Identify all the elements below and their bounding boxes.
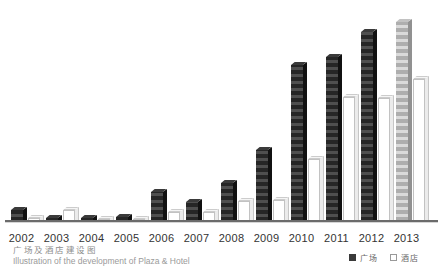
caption-chinese: 广场及酒店建设图 xyxy=(13,244,190,256)
hotel-bar-2013-side xyxy=(425,76,430,221)
legend-hotel-label: 酒店 xyxy=(401,252,419,263)
hotel-bar-2012-side xyxy=(390,95,395,221)
legend-plaza-label: 广场 xyxy=(360,252,378,263)
chart-caption: 广场及酒店建设图 Illustration of the development… xyxy=(13,244,190,267)
x-label-2008: 2008 xyxy=(214,232,249,244)
x-label-2009: 2009 xyxy=(249,232,284,244)
plaza-bar-2008-side xyxy=(233,180,238,221)
bar-group-2012 xyxy=(360,0,395,221)
plaza-bar-2011 xyxy=(326,53,342,221)
legend-item-hotel: 酒店 xyxy=(390,252,419,263)
bar-group-2013 xyxy=(395,0,430,221)
x-label-2006: 2006 xyxy=(144,232,179,244)
hotel-bar-2013-face xyxy=(413,79,425,221)
hotel-bar-2008 xyxy=(238,197,254,221)
hotel-bar-2008-side xyxy=(250,198,255,221)
plaza-bar-2010 xyxy=(291,61,307,221)
x-label-2013: 2013 xyxy=(389,232,424,244)
x-label-2011: 2011 xyxy=(319,232,354,244)
x-label-2010: 2010 xyxy=(284,232,319,244)
plaza-bar-2009-side xyxy=(268,147,273,221)
plaza-bar-2011-face xyxy=(326,57,338,221)
bar-group-2007 xyxy=(185,0,220,221)
plaza-bar-2007-side xyxy=(198,199,203,221)
plaza-bar-2013 xyxy=(396,18,412,221)
hotel-bar-2008-face xyxy=(238,201,250,221)
x-label-2012: 2012 xyxy=(354,232,389,244)
bar-group-2009 xyxy=(255,0,290,221)
plaza-bar-2012-face xyxy=(361,32,373,221)
plaza-bar-2007 xyxy=(186,198,202,221)
x-label-2003: 2003 xyxy=(39,232,74,244)
plaza-bar-2008-face xyxy=(221,183,233,221)
x-label-2004: 2004 xyxy=(74,232,109,244)
plaza-bar-2012 xyxy=(361,28,377,221)
chart-legend: 广场 酒店 xyxy=(349,252,419,263)
plaza-bar-2010-face xyxy=(291,65,303,221)
plaza-bar-2008 xyxy=(221,179,237,221)
hotel-bar-2011 xyxy=(343,93,359,221)
bar-group-2011 xyxy=(325,0,360,221)
x-label-2002: 2002 xyxy=(4,232,39,244)
bar-group-2005 xyxy=(115,0,150,221)
bar-group-2010 xyxy=(290,0,325,221)
plaza-swatch-icon xyxy=(349,254,356,261)
plaza-bar-2011-side xyxy=(338,54,343,221)
hotel-bar-2003 xyxy=(63,206,79,221)
hotel-bar-2013 xyxy=(413,75,429,221)
bar-group-2006 xyxy=(150,0,185,221)
plaza-bar-2009-face xyxy=(256,150,268,221)
x-axis-line xyxy=(5,220,438,223)
plaza-bar-2009 xyxy=(256,146,272,221)
x-label-2005: 2005 xyxy=(109,232,144,244)
plaza-bar-2010-side xyxy=(303,62,308,221)
hotel-bar-2009 xyxy=(273,196,289,221)
plaza-bar-2012-side xyxy=(373,29,378,221)
hotel-swatch-icon xyxy=(390,254,397,261)
bar-group-2003 xyxy=(45,0,80,221)
plot-area xyxy=(10,0,430,221)
hotel-bar-2012-face xyxy=(378,98,390,221)
plaza-bar-2006-side xyxy=(163,189,168,221)
caption-english: Illustration of the development of Plaza… xyxy=(13,256,190,267)
hotel-bar-2010 xyxy=(308,155,324,221)
plaza-bar-2006 xyxy=(151,188,167,221)
chart-canvas: 2002200320042005200620072008200920102011… xyxy=(0,0,443,272)
bar-group-2002 xyxy=(10,0,45,221)
x-label-2007: 2007 xyxy=(179,232,214,244)
hotel-bar-2009-side xyxy=(285,197,290,221)
hotel-bar-2011-face xyxy=(343,97,355,221)
hotel-bar-2011-side xyxy=(355,94,360,221)
hotel-bar-2010-side xyxy=(320,156,325,221)
hotel-bar-2009-face xyxy=(273,200,285,221)
bar-group-2008 xyxy=(220,0,255,221)
x-axis-labels: 2002200320042005200620072008200920102011… xyxy=(4,232,424,244)
plaza-bar-2006-face xyxy=(151,192,163,221)
bar-group-2004 xyxy=(80,0,115,221)
plaza-bar-2002 xyxy=(11,206,27,221)
hotel-bar-2012 xyxy=(378,94,394,221)
plaza-bar-2013-face xyxy=(396,22,408,221)
legend-item-plaza: 广场 xyxy=(349,252,378,263)
plaza-bar-2013-side xyxy=(408,19,413,221)
hotel-bar-2010-face xyxy=(308,159,320,221)
plaza-bar-2007-face xyxy=(186,202,198,221)
